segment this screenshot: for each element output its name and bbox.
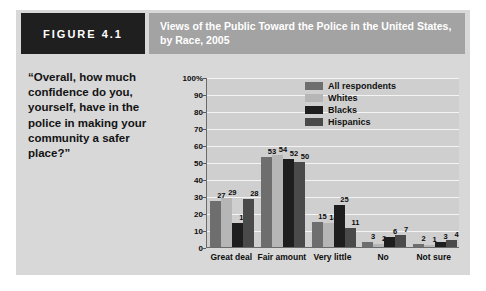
y-axis-tick-label: 20 [175,210,203,219]
chart-legend: All respondentsWhitesBlacksHispanics [305,80,455,128]
y-axis-tick-label: 0 [175,244,203,253]
bar [312,222,323,248]
legend-color-swatch [305,82,323,90]
bar [413,244,424,247]
survey-question-quote: “Overall, how much confidence do you, yo… [28,70,168,161]
bar [334,205,345,248]
x-axis-tick-label: Very little [314,252,352,262]
figure-header: FIGURE 4.1 Views of the Public Toward th… [16,10,470,57]
y-axis-tick-label: 10 [175,227,203,236]
figure-number-badge: FIGURE 4.1 [21,13,145,54]
bar [232,223,243,247]
bar [221,198,232,247]
bar-value-label: 4 [446,230,468,239]
figure-title-band: Views of the Public Toward the Police in… [149,13,465,54]
bar [395,235,406,247]
y-axis-tick-label: 80 [175,108,203,117]
legend-label: Blacks [328,105,357,115]
bar [272,155,283,247]
bar [373,244,384,247]
legend-color-swatch [305,106,323,114]
bar [261,157,272,247]
legend-item: Whites [305,92,455,104]
y-axis: 0102030405060708090100% [175,78,203,248]
x-axis-tick-label: No [377,252,388,262]
figure-panel: FIGURE 4.1 Views of the Public Toward th… [16,10,470,275]
bar [294,162,305,247]
legend-label: All respondents [328,81,396,91]
bar-group: 53545250 [261,78,305,247]
bar [435,242,446,247]
legend-label: Whites [328,93,358,103]
bar [283,159,294,247]
bar [446,240,457,247]
legend-item: Hispanics [305,116,455,128]
x-axis: Great dealFair amountVery littleNoNot su… [206,252,459,268]
bar [384,237,395,247]
x-axis-tick-label: Great deal [211,252,253,262]
figure-title: Views of the Public Toward the Police in… [149,20,465,47]
legend-item: Blacks [305,104,455,116]
x-axis-tick-label: Fair amount [258,252,307,262]
y-axis-tick-mark [203,248,206,249]
bar [243,199,254,247]
legend-color-swatch [305,118,323,126]
bar-value-label: 25 [334,195,356,204]
x-axis-tick-label: Not sure [416,252,450,262]
bar [362,242,373,247]
bar [210,201,221,247]
y-axis-tick-label: 60 [175,142,203,151]
y-axis-tick-label: 70 [175,125,203,134]
bar-value-label: 29 [221,188,243,197]
legend-label: Hispanics [328,117,371,127]
bar-group: 27291428 [210,78,254,247]
bar [323,223,334,247]
y-axis-tick-label: 50 [175,159,203,168]
bar [424,245,435,247]
legend-item: All respondents [305,80,455,92]
y-axis-tick-label: 90 [175,91,203,100]
y-axis-tick-label: 100% [175,74,203,83]
bar [345,228,356,247]
y-axis-tick-label: 40 [175,176,203,185]
y-axis-tick-label: 30 [175,193,203,202]
legend-color-swatch [305,94,323,102]
